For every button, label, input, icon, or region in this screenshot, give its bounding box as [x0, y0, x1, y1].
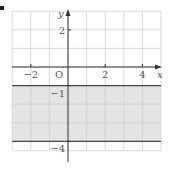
x-axis-label: x [157, 69, 163, 80]
x-tick-label: −2 [23, 69, 38, 80]
inequality-graph: x y O −2242−1−4 [0, 0, 171, 171]
y-tick-label: −4 [50, 143, 65, 154]
y-axis-label: y [57, 8, 64, 19]
origin-label: O [55, 69, 63, 80]
x-tick-label: 2 [102, 69, 108, 80]
y-axis-arrow-icon [66, 9, 71, 16]
x-tick-label: 4 [139, 69, 145, 80]
y-tick-label: −1 [50, 88, 65, 99]
y-tick-label: 2 [59, 25, 65, 36]
